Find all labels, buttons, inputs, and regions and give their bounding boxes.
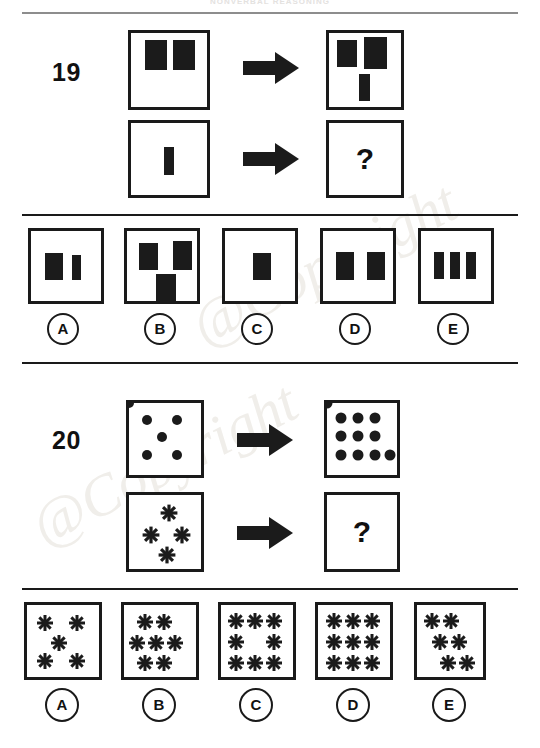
q20-option-b-panel[interactable] <box>121 602 199 680</box>
q20-option-label-d[interactable]: D <box>336 688 370 722</box>
flower-cluster-icon <box>417 605 483 677</box>
shape-rect <box>72 255 81 280</box>
option-letter: E <box>448 320 458 337</box>
shape-rect <box>466 252 476 279</box>
shape-rect <box>359 74 370 101</box>
shape-rect <box>364 37 387 69</box>
shape-rect <box>336 252 354 280</box>
dot-grid-icon <box>327 403 397 475</box>
q20-option-e-panel[interactable] <box>414 602 486 680</box>
q20-option-label-a[interactable]: A <box>45 688 79 722</box>
q20-option-label-c[interactable]: C <box>239 688 273 722</box>
q20-row2-result-panel: ? <box>324 492 400 572</box>
shape-rect <box>367 252 385 280</box>
shape-rect <box>173 241 192 270</box>
q20-option-d-panel[interactable] <box>315 602 393 680</box>
shape-rect <box>253 253 271 280</box>
q20-option-label-b[interactable]: B <box>142 688 176 722</box>
shape-rect <box>164 147 174 175</box>
flower-cluster-icon <box>318 605 390 677</box>
shape-rect <box>45 253 63 280</box>
rule-top <box>22 12 518 14</box>
question-number-20: 20 <box>52 426 81 455</box>
right-arrow-icon <box>237 424 293 456</box>
option-letter: D <box>348 696 359 713</box>
q19-option-label-e[interactable]: E <box>437 313 469 345</box>
dot-cluster-icon <box>129 403 201 475</box>
question-mark: ? <box>327 515 397 549</box>
question-number-19: 19 <box>52 58 81 87</box>
option-letter: A <box>57 696 68 713</box>
q19-row2-source-panel <box>128 120 210 198</box>
q19-option-label-b[interactable]: B <box>144 313 176 345</box>
q20-row1-source-panel <box>126 400 204 478</box>
rule-q19-options <box>22 214 518 216</box>
option-letter: D <box>350 320 361 337</box>
right-arrow-icon <box>237 517 293 549</box>
right-arrow-icon <box>243 52 299 84</box>
option-letter: A <box>58 320 69 337</box>
q19-option-label-a[interactable]: A <box>47 313 79 345</box>
flower-cluster-icon <box>124 605 196 677</box>
option-letter: B <box>154 696 165 713</box>
rule-q20-options <box>22 588 518 590</box>
right-arrow-icon <box>243 143 299 175</box>
shape-rect <box>145 40 167 70</box>
q19-row1-result-panel <box>326 30 404 110</box>
q19-option-a-panel[interactable] <box>28 228 104 304</box>
shape-rect <box>156 274 176 302</box>
rule-q19-bottom <box>22 362 518 364</box>
option-letter: E <box>444 696 454 713</box>
q19-option-c-panel[interactable] <box>222 228 298 304</box>
option-letter: C <box>252 320 263 337</box>
q19-option-e-panel[interactable] <box>418 228 494 304</box>
q20-option-c-panel[interactable] <box>218 602 296 680</box>
flower-cluster-icon <box>221 605 293 677</box>
q20-option-label-e[interactable]: E <box>432 688 466 722</box>
shape-rect <box>434 252 444 279</box>
shape-rect <box>337 40 357 67</box>
page-header: NONVERBAL REASONING <box>0 0 540 6</box>
shape-rect <box>173 40 195 70</box>
flower-cluster-icon <box>129 495 201 569</box>
flower-cluster-icon <box>27 605 99 677</box>
q19-option-label-d[interactable]: D <box>339 313 371 345</box>
q20-row1-result-panel <box>324 400 400 478</box>
q19-option-label-c[interactable]: C <box>241 313 273 345</box>
q19-option-d-panel[interactable] <box>320 228 396 304</box>
q19-option-b-panel[interactable] <box>124 228 200 304</box>
shape-rect <box>139 243 158 270</box>
option-letter: B <box>155 320 166 337</box>
q19-row1-source-panel <box>128 30 210 110</box>
q20-row2-source-panel <box>126 492 204 572</box>
question-mark: ? <box>329 142 401 176</box>
option-letter: C <box>251 696 262 713</box>
shape-rect <box>450 252 460 279</box>
q20-option-a-panel[interactable] <box>24 602 102 680</box>
q19-row2-result-panel: ? <box>326 120 404 198</box>
